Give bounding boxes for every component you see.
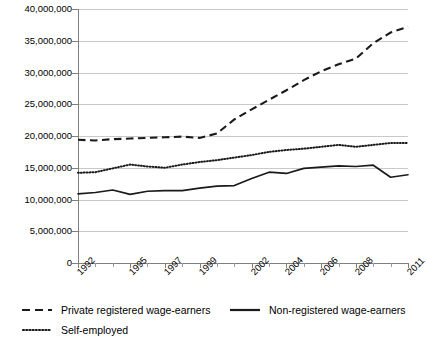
x-axis-tick-label: 1997	[162, 255, 184, 277]
x-axis-tick	[373, 263, 374, 267]
x-axis-tick	[391, 263, 392, 267]
x-axis-tick-label: 2004	[283, 255, 305, 277]
x-axis-tick-label: 1999	[197, 255, 219, 277]
legend-item-private-registered-wage-earners[interactable]: Private registered wage-earners	[22, 303, 210, 317]
x-axis-tick-label: 2008	[353, 255, 375, 277]
x-axis-tick-label: 2006	[318, 255, 340, 277]
x-axis-tick	[339, 263, 340, 267]
legend-swatch-solid-icon	[230, 304, 260, 316]
x-axis-tick	[147, 263, 148, 267]
legend-label: Self-employed	[61, 325, 128, 336]
legend-swatch-dotted-icon	[22, 324, 52, 336]
legend-label: Non-registered wage-earners	[269, 305, 406, 316]
x-axis-tick-label: 2011	[405, 256, 427, 278]
x-axis-tick	[234, 263, 235, 267]
x-axis-tick-label: 1995	[127, 255, 149, 277]
legend-swatch-dashed-icon	[22, 304, 52, 316]
x-axis-tick-label: 2002	[249, 255, 271, 277]
x-axis-tick	[304, 263, 305, 267]
x-axis-tick	[113, 263, 114, 267]
x-axis-tick	[217, 263, 218, 267]
x-axis-tick-label: 1992	[75, 255, 97, 277]
legend-label: Private registered wage-earners	[61, 305, 210, 316]
x-axis-tick	[269, 263, 270, 267]
x-axis-tick	[95, 263, 96, 267]
x-axis-tick	[182, 263, 183, 267]
legend-item-non-registered-wage-earners[interactable]: Non-registered wage-earners	[230, 303, 406, 317]
legend-item-self-employed[interactable]: Self-employed	[22, 323, 128, 337]
legend: Private registered wage-earners Non-regi…	[22, 303, 416, 339]
